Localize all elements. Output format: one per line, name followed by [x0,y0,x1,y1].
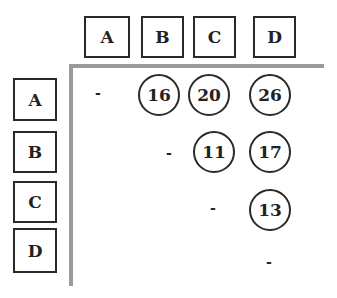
row-header-d: D [13,228,57,273]
row-header-b: B [13,131,57,173]
column-header-d: D [253,16,296,58]
cell-b-c: 11 [193,131,235,173]
vertical-axis-line [69,64,73,286]
cell-c-d: 13 [249,189,291,231]
cell-a-a: - [95,85,101,101]
cell-a-d: 26 [249,74,291,116]
row-header-c: C [13,181,57,223]
horizontal-axis-line [69,64,324,68]
column-header-a: A [84,16,130,58]
cell-a-c: 20 [188,74,230,116]
cell-c-c: - [210,200,216,216]
cell-b-b: - [166,145,172,161]
cell-a-b: 16 [138,74,180,116]
cell-b-d: 17 [249,131,291,173]
column-header-c: C [193,16,236,58]
cell-d-d: - [266,254,272,270]
column-header-b: B [141,16,184,58]
row-header-a: A [13,78,57,121]
